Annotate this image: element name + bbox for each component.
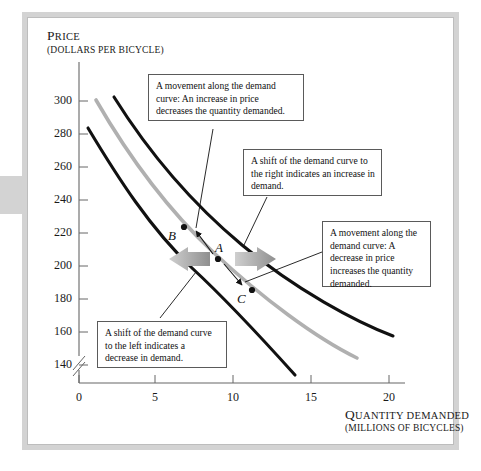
movement-arrow-up <box>196 231 213 254</box>
x-axis-ticks <box>79 375 389 383</box>
data-point-b <box>181 224 187 230</box>
data-point-a <box>215 256 221 262</box>
y-axis-subtitle: (DOLLARS PER BICYCLE) <box>47 45 164 55</box>
y-tick-label-220: 220 <box>42 225 72 240</box>
leader-line-shift-right <box>244 197 267 245</box>
callout-shift-left: A shift of the demand curve to the left … <box>97 321 227 368</box>
y-tick-label-200: 200 <box>42 258 72 273</box>
data-point-c <box>249 287 255 293</box>
leader-line-movement-up <box>196 129 213 228</box>
figure-root: PRICE (DOLLARS PER BICYCLE) QUANTITY DEM… <box>0 0 481 471</box>
x-tick-label-20: 20 <box>379 390 399 405</box>
x-axis-title-rest: UANTITY DEMANDED <box>355 410 469 421</box>
x-tick-label-10: 10 <box>223 390 243 405</box>
point-label-b: B <box>168 228 176 244</box>
callout-movement-up: A movement along the demand curve: An in… <box>148 74 304 121</box>
y-axis-ticks <box>79 101 88 365</box>
callout-shift-right: A shift of the demand curve to the right… <box>243 149 382 196</box>
y-axis-title: PRICE <box>47 26 80 44</box>
y-tick-label-300: 300 <box>42 93 72 108</box>
y-tick-label-140: 140 <box>42 357 72 372</box>
leader-line-shift-left <box>160 272 196 318</box>
point-label-c: C <box>237 291 246 307</box>
callout-movement-down: A movement along the demand curve: A dec… <box>322 221 431 287</box>
demand-curve-right <box>114 97 393 336</box>
y-tick-label-260: 260 <box>42 159 72 174</box>
y-tick-label-180: 180 <box>42 291 72 306</box>
x-axis-title-initial: Q <box>345 407 355 422</box>
x-tick-label-0: 0 <box>69 390 89 405</box>
x-tick-label-15: 15 <box>301 390 321 405</box>
x-axis-title: QUANTITY DEMANDED <box>345 405 469 423</box>
point-label-a: A <box>215 240 223 256</box>
x-tick-label-5: 5 <box>145 390 165 405</box>
y-axis-title-initial: P <box>47 28 55 43</box>
x-axis-subtitle: (MILLIONS OF BICYCLES) <box>345 423 464 433</box>
y-tick-label-240: 240 <box>42 192 72 207</box>
y-tick-label-280: 280 <box>42 126 72 141</box>
demand-curve-original <box>96 100 357 358</box>
y-axis-title-rest: RICE <box>55 31 80 42</box>
y-tick-label-160: 160 <box>42 324 72 339</box>
